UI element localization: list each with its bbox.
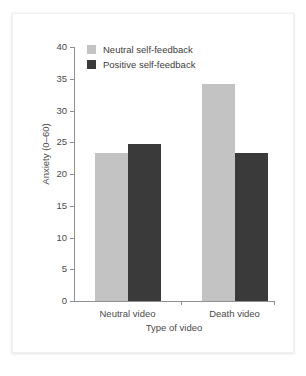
y-axis-tick <box>70 206 74 207</box>
y-axis-tick-label: 25 <box>56 138 67 148</box>
bar <box>235 153 268 301</box>
figure-card: Neutral self-feedback Positive self-feed… <box>12 13 294 353</box>
y-axis-tick <box>70 269 74 270</box>
x-axis-tick <box>181 301 182 305</box>
y-axis-tick <box>70 79 74 80</box>
y-axis-tick-label: 15 <box>56 201 67 211</box>
y-axis-tick-label: 10 <box>56 233 67 243</box>
y-axis-tick-label: 5 <box>62 265 67 275</box>
y-axis-tick <box>70 301 74 302</box>
plot-area: 0510152025303540 Neutral videoDeath vide… <box>74 47 274 301</box>
bar <box>95 153 128 301</box>
y-axis-tick-label: 0 <box>62 296 67 306</box>
y-axis-title: Anxiety (0–60) <box>39 27 53 281</box>
y-axis-tick-label: 40 <box>56 42 67 52</box>
y-axis-tick <box>70 238 74 239</box>
x-axis-tick <box>274 301 275 305</box>
y-axis-tick-label: 30 <box>56 106 67 116</box>
y-axis-tick-label: 35 <box>56 74 67 84</box>
y-axis-tick <box>70 174 74 175</box>
bar <box>202 84 235 301</box>
x-axis-category-label: Death video <box>209 309 260 319</box>
y-axis-tick <box>70 142 74 143</box>
y-axis-tick-label: 20 <box>56 169 67 179</box>
x-axis-line <box>74 301 274 302</box>
y-axis-line <box>74 47 75 301</box>
y-axis-tick <box>70 111 74 112</box>
x-axis-title: Type of video <box>74 323 274 333</box>
bar <box>128 144 161 301</box>
x-axis-category-label: Neutral video <box>100 309 156 319</box>
y-axis-tick <box>70 47 74 48</box>
